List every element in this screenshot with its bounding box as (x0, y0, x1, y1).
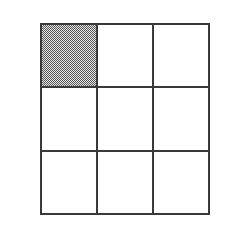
grid-cell (98, 152, 152, 213)
grid-cell (154, 152, 208, 213)
three-by-three-grid (40, 23, 210, 215)
grid-cell (98, 25, 152, 86)
grid-cell-shaded (42, 25, 96, 86)
grid-cell (154, 25, 208, 86)
grid-cell (42, 152, 96, 213)
grid-cell (154, 88, 208, 149)
grid-cell (42, 88, 96, 149)
figure-canvas (0, 0, 239, 231)
grid-cell (98, 88, 152, 149)
